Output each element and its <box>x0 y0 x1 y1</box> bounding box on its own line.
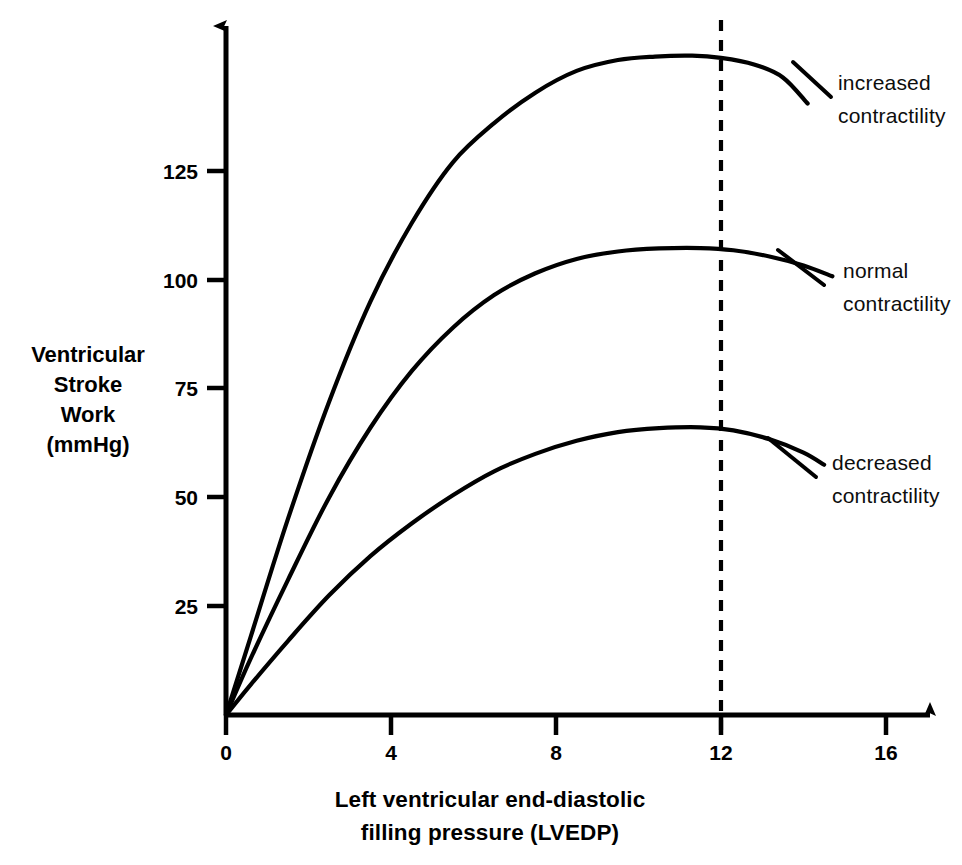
x-axis-title-line1: Left ventricular end-diastolic <box>335 787 646 812</box>
annotation-normal-line2: contractility <box>843 292 951 315</box>
annotation-leader-lines <box>768 62 831 477</box>
y-tick-label-25: 25 <box>175 595 199 618</box>
y-axis-title: Ventricular Stroke Work (mmHg) <box>31 342 145 457</box>
curve-series-group <box>226 56 832 715</box>
x-tick-label-0: 0 <box>220 741 232 764</box>
y-tick-label-50: 50 <box>175 486 198 509</box>
annotation-decreased-line1: decreased <box>832 451 932 474</box>
y-tick-label-75: 75 <box>175 377 199 400</box>
y-axis-title-line3: Work <box>61 402 116 427</box>
x-tick-label-8: 8 <box>550 741 562 764</box>
curve-decreased-contractility <box>226 427 824 715</box>
x-axis-tick-labels: 0 4 8 12 16 <box>220 741 898 764</box>
annotation-increased-line1: increased <box>838 71 931 94</box>
annotation-decreased-contractility: decreased contractility <box>832 451 940 507</box>
x-tick-label-16: 16 <box>874 741 897 764</box>
annotation-increased-contractility: increased contractility <box>838 71 946 127</box>
ventricular-function-curve-chart: 25 50 75 100 125 0 4 8 12 16 <box>0 0 962 865</box>
x-axis-title-line2: filling pressure (LVEDP) <box>361 820 619 845</box>
leader-line-normal <box>778 250 824 285</box>
annotation-normal-contractility: normal contractility <box>843 259 951 315</box>
y-tick-label-100: 100 <box>163 269 198 292</box>
x-tick-label-12: 12 <box>709 741 732 764</box>
y-axis-ticks <box>207 171 226 606</box>
annotation-decreased-line2: contractility <box>832 484 940 507</box>
x-axis-title: Left ventricular end-diastolic filling p… <box>335 787 646 845</box>
chart-figure: 25 50 75 100 125 0 4 8 12 16 <box>0 0 962 865</box>
y-axis-title-line2: Stroke <box>54 372 122 397</box>
y-axis-title-line1: Ventricular <box>31 342 145 367</box>
y-tick-label-125: 125 <box>163 160 198 183</box>
chart-axes <box>226 26 930 715</box>
curve-normal-contractility <box>226 248 832 715</box>
y-axis-tick-labels: 25 50 75 100 125 <box>163 160 198 618</box>
annotation-normal-line1: normal <box>843 259 908 282</box>
x-axis-ticks <box>226 715 886 735</box>
annotation-increased-line2: contractility <box>838 104 946 127</box>
y-axis-title-line4: (mmHg) <box>46 432 129 457</box>
x-tick-label-4: 4 <box>385 741 397 764</box>
